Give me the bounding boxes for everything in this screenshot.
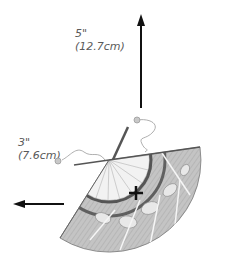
arrow-left-icon (13, 200, 64, 208)
fan-shape (53, 104, 201, 252)
arrow-up-icon (137, 14, 145, 108)
fan-diagram (0, 0, 228, 270)
